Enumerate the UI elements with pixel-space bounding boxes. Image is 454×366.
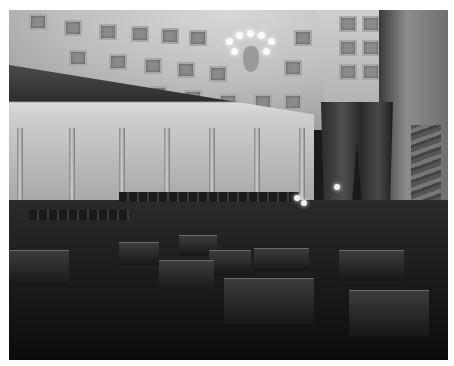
desk — [159, 260, 214, 291]
desk-row — [29, 210, 129, 220]
desk-row — [119, 192, 299, 202]
desk — [349, 290, 429, 336]
desk — [254, 248, 309, 271]
chamber-photo — [9, 10, 448, 360]
desk — [339, 250, 404, 281]
lamp — [294, 195, 300, 201]
chandelier — [221, 28, 281, 78]
desk — [209, 250, 251, 275]
desk — [119, 242, 159, 265]
lamp — [301, 200, 307, 206]
desk — [9, 250, 69, 286]
desk — [224, 278, 314, 324]
lamp — [334, 184, 340, 190]
